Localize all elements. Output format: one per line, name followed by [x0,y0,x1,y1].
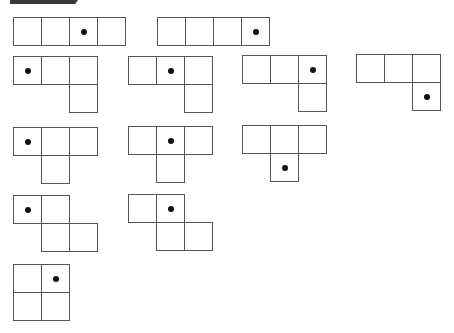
grid-cell [41,155,70,184]
grid-cell [13,17,42,46]
dot-marker-icon [81,29,87,35]
grid-cell [13,56,42,85]
dot-marker-icon [53,276,59,282]
grid-cell [242,55,271,84]
dot-marker-icon [168,138,174,144]
grid-cell [41,127,70,156]
grid-cell [69,223,98,252]
grid-cell [184,222,213,251]
grid-cell [242,125,271,154]
grid-cell [156,56,185,85]
grid-cell [69,56,98,85]
dot-marker-icon [253,29,259,35]
grid-cell [412,82,441,111]
dot-marker-icon [25,207,31,213]
grid-cell [241,17,270,46]
grid-cell [69,84,98,113]
dot-marker-icon [282,165,288,171]
header-banner [10,0,78,4]
grid-cell [270,55,299,84]
grid-cell [41,292,70,321]
grid-cell [298,125,327,154]
dot-marker-icon [25,68,31,74]
grid-cell [13,292,42,321]
grid-cell [270,125,299,154]
grid-cell [156,194,185,223]
grid-cell [156,154,185,183]
grid-cell [184,126,213,155]
grid-cell [41,223,70,252]
grid-cell [41,264,70,293]
grid-cell [13,195,42,224]
grid-cell [356,54,385,83]
grid-cell [185,17,214,46]
grid-cell [213,17,242,46]
grid-cell [128,194,157,223]
grid-cell [156,222,185,251]
grid-cell [298,55,327,84]
grid-cell [156,126,185,155]
grid-cell [128,126,157,155]
grid-cell [41,17,70,46]
grid-cell [412,54,441,83]
grid-cell [41,195,70,224]
grid-cell [270,153,299,182]
grid-cell [69,127,98,156]
dot-marker-icon [310,67,316,73]
grid-cell [69,17,98,46]
grid-cell [97,17,126,46]
grid-cell [13,127,42,156]
dot-marker-icon [168,206,174,212]
dot-marker-icon [168,68,174,74]
grid-cell [298,83,327,112]
grid-cell [41,56,70,85]
grid-cell [13,264,42,293]
grid-cell [184,56,213,85]
grid-cell [128,56,157,85]
dot-marker-icon [25,139,31,145]
grid-cell [184,84,213,113]
grid-cell [157,17,186,46]
grid-cell [384,54,413,83]
dot-marker-icon [424,94,430,100]
